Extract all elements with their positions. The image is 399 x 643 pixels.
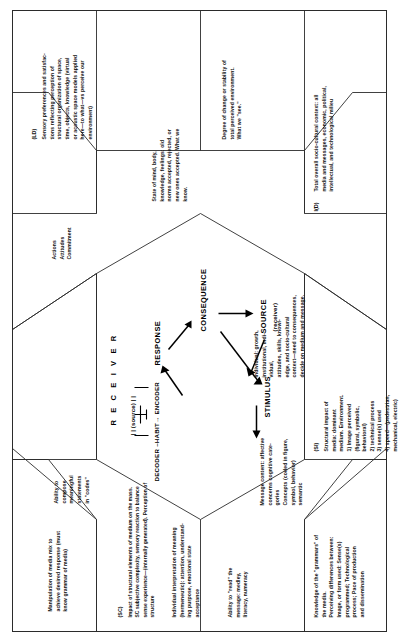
panel-ld-code: (LD) (31, 129, 37, 140)
panel-read-text: Ability to "read" the message: medley, l… (227, 522, 250, 618)
panel-grammars-text: Knowledge of the "grammars" of the media… (313, 480, 366, 618)
panel-message-content-text: Message content: affective concerns cogn… (259, 402, 305, 506)
arrow-habit-to-response (165, 370, 183, 396)
source-marker: | | (source) | | (129, 396, 136, 436)
arrow-response-to-consequence (169, 326, 189, 350)
panel-individual-growth-text: Individual: growth, institutional, indi-… (253, 258, 306, 378)
panel-id-code: I(D) (313, 203, 319, 212)
edge-dup-u3 (13, 274, 97, 330)
panel-sc-code: (SC) (117, 606, 123, 617)
figure-page: R E C E I V E R | | (source) | | DECODER… (0, 0, 399, 643)
node-consequence: CONSEQUENCE (199, 269, 208, 332)
node-response: RESPONSE (153, 321, 162, 366)
panel-compose-text: Ability to compose meaningful statements… (53, 448, 91, 504)
panel-si-code: (SI) (313, 443, 319, 452)
panel-actions-text: Actions Attitudes Commitment (51, 184, 74, 260)
panel-state-of-mind-text: State of mind, body, knowledge, feelings… (151, 98, 189, 202)
panel-si-text: Structural impact of media: dominant med… (323, 342, 399, 452)
panel-interpretation-text: Individual interpretation of meaning (he… (171, 466, 202, 618)
figure-frame: R E C E I V E R | | (source) | | DECODER… (12, 10, 387, 632)
rotated-diagram-canvas: R E C E I V E R | | (source) | | DECODER… (13, 11, 387, 632)
cycle-arrow-group (161, 310, 265, 439)
panel-ld-text: Sensory preferences and satisfac- tions … (41, 18, 94, 140)
edge-dup-l3 (305, 274, 387, 330)
receiver-header: R E C E I V E R (109, 333, 118, 425)
panel-id-text: Total overall socio-cultural context: al… (313, 16, 336, 192)
panel-stability-text: Degree of change or stability of total p… (221, 16, 244, 140)
panel-sc-text: Impact of structural elements of medium … (127, 432, 156, 618)
source-tick-marks (135, 388, 149, 436)
